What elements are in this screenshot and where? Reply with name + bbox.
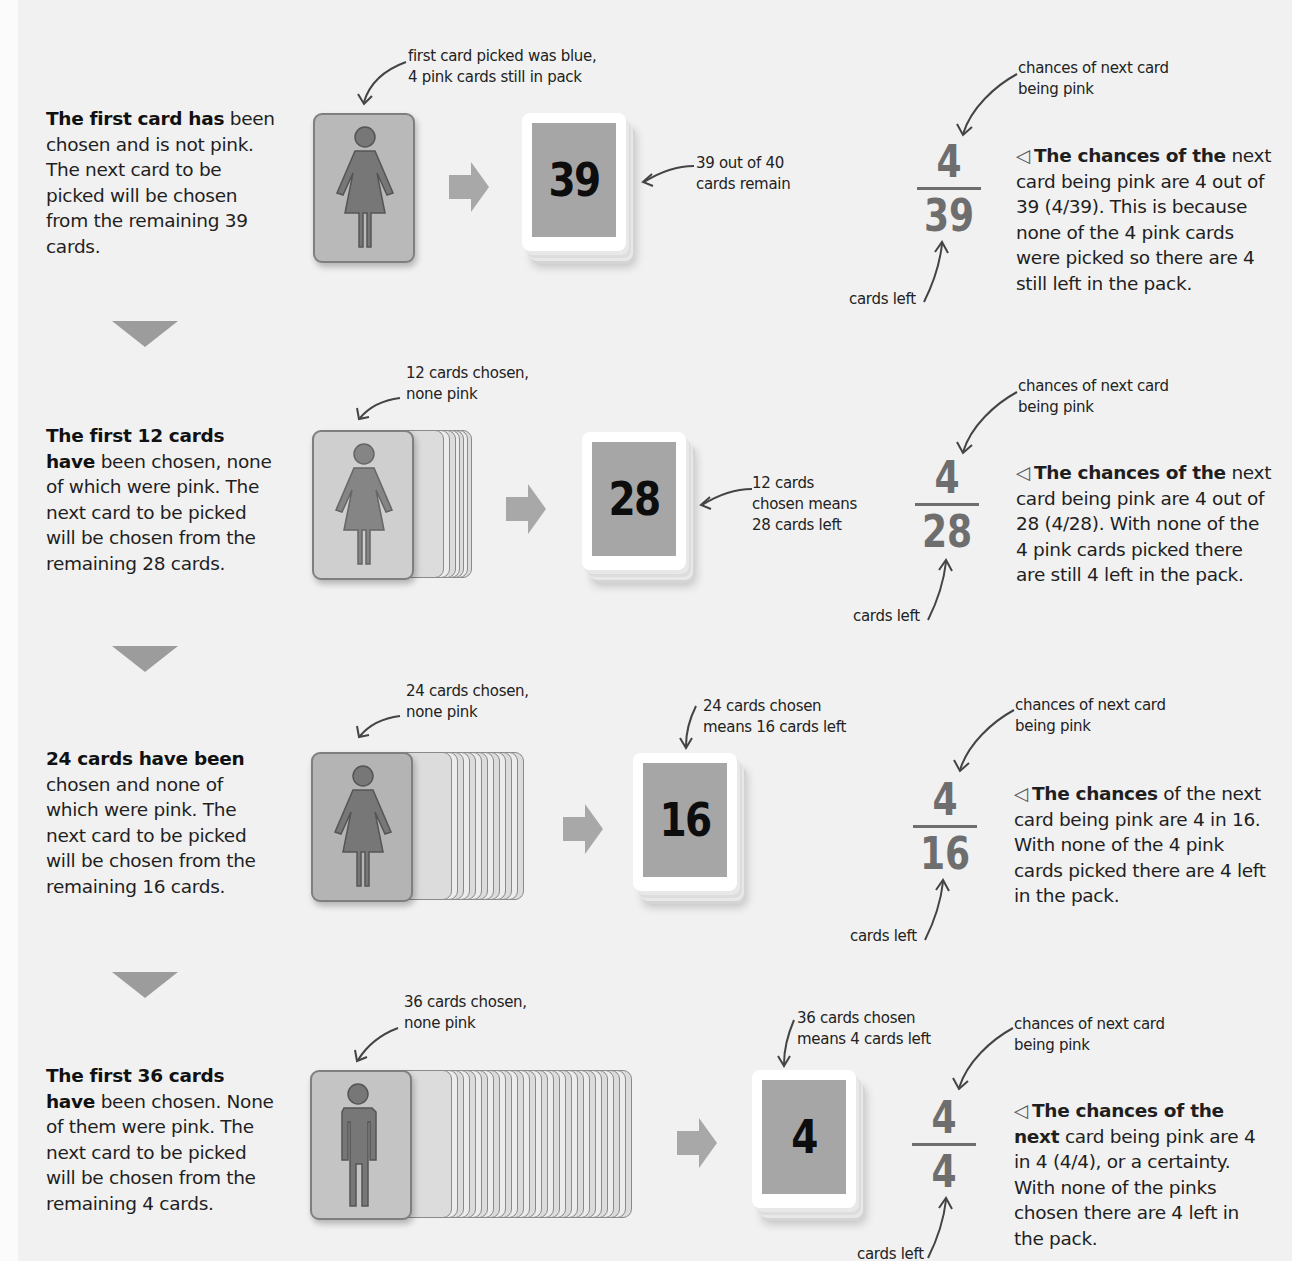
curved-arrow-icon (952, 708, 1018, 774)
chosen-card (310, 1070, 412, 1220)
pack-note: 12 cardschosen means28 cards left (752, 473, 857, 536)
probability-fraction: 428 (915, 456, 979, 554)
denominator: 28 (921, 510, 973, 554)
cards-left-label: cards left (850, 926, 917, 947)
curved-arrow-icon (354, 394, 404, 422)
step-1: The first card has been chosen and is no… (0, 0, 1292, 320)
description-lead: 24 cards have been (46, 748, 244, 769)
explanation-lead: The chances of the (1034, 145, 1226, 166)
numerator: 4 (921, 456, 973, 500)
curved-arrow-icon (698, 485, 754, 511)
chosen-card (311, 752, 413, 902)
left-triangle-icon: ◁ (1016, 462, 1030, 483)
right-arrow-icon (563, 804, 603, 854)
woman-figure-icon (315, 115, 413, 261)
denominator: 39 (923, 194, 975, 238)
curved-arrow-icon (352, 1024, 402, 1064)
chosen-note: first card picked was blue,4 pink cards … (408, 46, 596, 88)
right-arrow-icon (506, 484, 546, 534)
explanation-lead: The chances (1032, 783, 1158, 804)
cards-left-label: cards left (853, 606, 920, 627)
chosen-card (313, 113, 415, 263)
explanation: ◁The chances of the next card being pink… (1014, 1098, 1274, 1252)
curved-arrow-icon (921, 878, 951, 942)
probability-fraction: 416 (913, 778, 977, 876)
pack-note: 24 cards chosenmeans 16 cards left (703, 696, 846, 738)
remaining-pack: 4 (752, 1070, 856, 1208)
remaining-pack: 28 (582, 432, 686, 570)
woman-figure-icon (314, 432, 412, 578)
right-arrow-icon (677, 1118, 717, 1168)
right-arrow-icon (449, 162, 489, 212)
remaining-count: 16 (659, 793, 710, 847)
step-description: The first 36 cards have been chosen. Non… (46, 1063, 276, 1217)
explanation: ◁The chances of the next card being pink… (1016, 460, 1276, 588)
description-lead: The first card has (46, 108, 224, 129)
chosen-card (312, 430, 414, 580)
curved-arrow-icon (678, 704, 702, 750)
remaining-count: 39 (548, 153, 599, 207)
explanation: ◁The chances of the next card being pink… (1016, 143, 1276, 297)
cards-left-label: cards left (857, 1244, 924, 1261)
probability-fraction: 439 (917, 140, 981, 238)
chance-note: chances of next cardbeing pink (1014, 1014, 1165, 1056)
explanation-lead: The chances of the (1034, 462, 1226, 483)
left-triangle-icon: ◁ (1014, 783, 1028, 804)
chosen-note: 12 cards chosen,none pink (406, 363, 529, 405)
chance-note: chances of next cardbeing pink (1018, 58, 1169, 100)
left-triangle-icon: ◁ (1016, 145, 1030, 166)
denominator: 16 (919, 832, 971, 876)
woman-figure-icon (313, 754, 411, 900)
step-description: The first 12 cards have been chosen, non… (46, 423, 276, 577)
curved-arrow-icon (955, 390, 1021, 456)
step-3: 24 cards have been chosen and none of wh… (0, 644, 1292, 964)
cards-left-label: cards left (849, 289, 916, 310)
remaining-count: 4 (791, 1110, 817, 1164)
remaining-pack: 39 (522, 113, 626, 251)
curved-arrow-icon (924, 558, 954, 622)
description-body: been chosen and is not pink. The next ca… (46, 108, 275, 257)
man-figure-icon (312, 1072, 410, 1218)
curved-arrow-icon (924, 1196, 954, 1260)
chance-note: chances of next cardbeing pink (1018, 376, 1169, 418)
chance-note: chances of next cardbeing pink (1015, 695, 1166, 737)
chosen-note: 36 cards chosen,none pink (404, 992, 527, 1034)
chosen-note: 24 cards chosen,none pink (406, 681, 529, 723)
left-triangle-icon: ◁ (1014, 1100, 1028, 1121)
remaining-pack: 16 (633, 753, 737, 891)
numerator: 4 (923, 140, 975, 184)
step-description: 24 cards have been chosen and none of wh… (46, 746, 276, 900)
step-description: The first card has been chosen and is no… (46, 106, 276, 260)
pack-note: 36 cards chosenmeans 4 cards left (797, 1008, 931, 1050)
curved-arrow-icon (356, 58, 412, 108)
pack-note: 39 out of 40cards remain (696, 153, 790, 195)
step-4: The first 36 cards have been chosen. Non… (0, 966, 1292, 1261)
curved-arrow-icon (955, 72, 1021, 138)
description-body: chosen and none of which were pink. The … (46, 774, 256, 897)
curved-arrow-icon (920, 240, 950, 304)
denominator: 4 (918, 1150, 970, 1194)
explanation-body: next card being pink are 4 out of 39 (4/… (1016, 145, 1271, 294)
probability-fraction: 44 (912, 1096, 976, 1194)
explanation: ◁The chances of the next card being pink… (1014, 781, 1274, 909)
curved-arrow-icon (951, 1026, 1017, 1092)
curved-arrow-icon (354, 712, 404, 740)
curved-arrow-icon (640, 162, 696, 188)
numerator: 4 (919, 778, 971, 822)
step-2: The first 12 cards have been chosen, non… (0, 318, 1292, 638)
numerator: 4 (918, 1096, 970, 1140)
remaining-count: 28 (608, 472, 659, 526)
